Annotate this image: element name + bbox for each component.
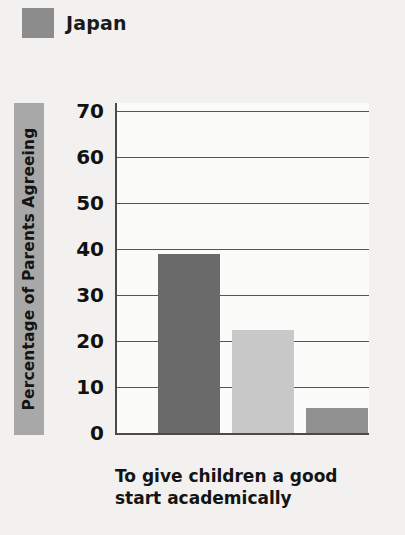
y-tick-label-0: 0 <box>90 423 104 443</box>
y-axis-title: Percentage of Parents Agreeing <box>14 103 44 435</box>
x-axis-caption-line-1: To give children a good <box>115 466 395 488</box>
bar-2 <box>232 330 294 434</box>
bar-group <box>117 103 369 433</box>
y-axis-title-text: Percentage of Parents Agreeing <box>20 128 38 411</box>
plot-area <box>115 103 369 435</box>
x-axis-caption: To give children a good start academical… <box>115 466 395 510</box>
y-tick-label-50: 50 <box>76 193 104 213</box>
bar-3 <box>306 408 368 433</box>
y-axis-tick-labels: 010203040506070 <box>52 103 108 435</box>
y-tick-label-10: 10 <box>76 377 104 397</box>
y-tick-label-60: 60 <box>76 147 104 167</box>
legend-swatch-japan <box>22 8 54 38</box>
y-tick-label-40: 40 <box>76 239 104 259</box>
x-axis-caption-line-2: start academically <box>115 488 395 510</box>
bar-1 <box>158 254 220 433</box>
y-tick-label-30: 30 <box>76 285 104 305</box>
y-tick-label-20: 20 <box>76 331 104 351</box>
chart-legend: Japan <box>22 8 127 38</box>
y-tick-label-70: 70 <box>76 101 104 121</box>
legend-label-japan: Japan <box>66 12 127 34</box>
